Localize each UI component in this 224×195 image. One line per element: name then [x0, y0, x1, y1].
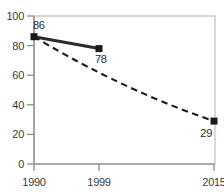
y-tick-label-80: 80	[12, 40, 24, 52]
data-label-78: 78	[95, 53, 107, 65]
y-axis-tick-labels: 100 80 60 40 20 0	[7, 10, 25, 170]
x-axis-ticks	[34, 164, 214, 171]
x-tick-label-1990: 1990	[22, 176, 45, 188]
data-point-marker-2015	[211, 118, 218, 125]
data-label-86: 86	[33, 19, 45, 31]
y-tick-label-20: 20	[12, 128, 24, 140]
y-tick-label-40: 40	[12, 99, 24, 111]
data-point-marker-1990	[31, 33, 38, 40]
chart-container: 100 80 60 40 20 0 1990 1999 2015	[0, 0, 224, 195]
data-point-marker-1999	[96, 45, 103, 52]
x-tick-label-2015: 2015	[202, 176, 224, 188]
y-tick-label-0: 0	[18, 158, 24, 170]
y-tick-label-60: 60	[12, 69, 24, 81]
x-axis-tick-labels: 1990 1999 2015	[22, 176, 224, 188]
data-label-29: 29	[200, 127, 212, 139]
x-tick-label-1999: 1999	[87, 176, 110, 188]
line-chart: 100 80 60 40 20 0 1990 1999 2015	[0, 0, 224, 195]
plot-background	[34, 16, 215, 164]
y-tick-label-100: 100	[7, 10, 25, 22]
